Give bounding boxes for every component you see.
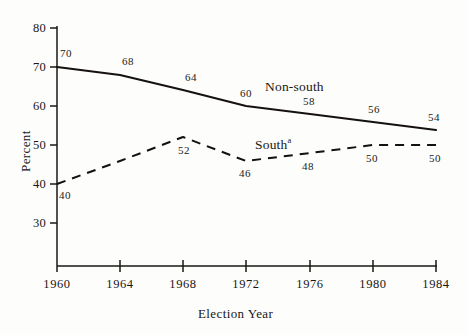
y-axis-title: Percent bbox=[19, 130, 32, 172]
x-tick-label-1960: 1960 bbox=[31, 278, 83, 291]
point-label-nonsouth-1972: 60 bbox=[240, 88, 252, 99]
series-annotation-south: Southa bbox=[255, 136, 292, 151]
x-tick-label-1968: 1968 bbox=[157, 278, 209, 291]
point-label-nonsouth-1980: 56 bbox=[368, 104, 380, 115]
series-annotation-south-text: South bbox=[255, 137, 288, 152]
y-tick-label-80: 80 bbox=[24, 22, 46, 35]
y-tick-label-60: 60 bbox=[24, 100, 46, 113]
x-tick-label-1980: 1980 bbox=[347, 278, 399, 291]
point-label-nonsouth-1984: 54 bbox=[428, 112, 440, 123]
point-label-south-1980: 50 bbox=[366, 153, 378, 164]
point-label-south-1960: 40 bbox=[59, 190, 71, 201]
y-tick-label-40: 40 bbox=[24, 178, 46, 191]
point-label-nonsouth-1968: 64 bbox=[185, 72, 197, 83]
y-tick-label-30: 30 bbox=[24, 217, 46, 230]
y-tick-label-70: 70 bbox=[24, 61, 46, 74]
point-label-south-1972: 46 bbox=[239, 168, 251, 179]
point-label-south-1976: 48 bbox=[302, 161, 314, 172]
point-label-nonsouth-1964: 68 bbox=[122, 56, 134, 67]
x-tick-label-1976: 1976 bbox=[284, 278, 336, 291]
series-annotation-south-footnote: a bbox=[288, 135, 292, 145]
x-tick-label-1972: 1972 bbox=[220, 278, 272, 291]
chart-figure: 80 70 60 50 40 30 1960 1964 1968 1972 19… bbox=[0, 0, 468, 335]
point-label-south-1968: 52 bbox=[178, 145, 190, 156]
x-axis-title: Election Year bbox=[198, 307, 273, 320]
x-tick-label-1964: 1964 bbox=[94, 278, 146, 291]
point-label-nonsouth-1960: 70 bbox=[60, 48, 72, 59]
y-axis-ticks bbox=[50, 28, 57, 223]
x-tick-label-1984: 1984 bbox=[410, 278, 462, 291]
point-label-south-1984: 50 bbox=[429, 153, 441, 164]
series-annotation-nonsouth: Non-south bbox=[265, 80, 324, 94]
point-label-nonsouth-1976: 58 bbox=[303, 96, 315, 107]
